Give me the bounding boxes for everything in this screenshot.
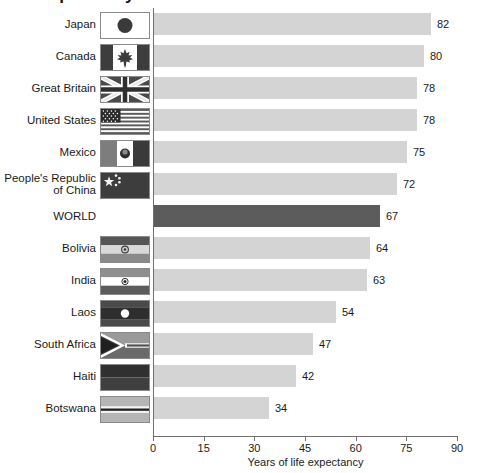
x-axis-tick: [254, 436, 255, 441]
flag-united-states-icon: [100, 108, 150, 135]
bar-value-label: 78: [423, 109, 435, 131]
bar: [154, 365, 296, 387]
bar-row: South Africa47: [0, 328, 478, 360]
bar-row: People's Republicof China72: [0, 168, 478, 200]
flag-china-icon: [100, 172, 150, 199]
bar: [154, 45, 424, 67]
country-label: Bolivia: [0, 232, 96, 264]
bar: [154, 77, 417, 99]
country-label: WORLD: [0, 200, 96, 232]
bar-row: Bolivia64: [0, 232, 478, 264]
country-label-line1: People's Republic: [4, 172, 96, 185]
country-label: Mexico: [0, 136, 96, 168]
bar-row: Mexico75: [0, 136, 478, 168]
bar-row: WORLD67: [0, 200, 478, 232]
country-label: South Africa: [0, 328, 96, 360]
bar-value-label: 42: [302, 365, 314, 387]
bar-row: India63: [0, 264, 478, 296]
flag-south-africa-icon: [100, 332, 150, 359]
x-axis-tick: [457, 436, 458, 441]
bar-row: Canada80: [0, 40, 478, 72]
country-label: People's Republicof China: [0, 168, 96, 200]
x-axis-tick-label: 0: [150, 442, 156, 454]
x-axis-tick-label: 15: [198, 442, 210, 454]
x-axis-tick-label: 90: [451, 442, 463, 454]
x-axis-tick-label: 60: [350, 442, 362, 454]
bar: [154, 397, 269, 419]
bar-row: Botswana34: [0, 392, 478, 424]
flag-japan-icon: [100, 12, 150, 39]
flag-mexico-icon: [100, 140, 150, 167]
bar-row: Japan82: [0, 8, 478, 40]
country-label: Laos: [0, 296, 96, 328]
bar: [154, 237, 370, 259]
bar-value-label: 82: [437, 13, 449, 35]
country-label: United States: [0, 104, 96, 136]
bar: [154, 141, 407, 163]
flag-haiti-icon: [100, 364, 150, 391]
country-label: India: [0, 264, 96, 296]
bar: [154, 109, 417, 131]
life-expectancy-bar-chart: Japan82Canada80Great Britain78United Sta…: [0, 0, 478, 473]
x-axis-tick-label: 30: [248, 442, 260, 454]
x-axis-tick: [204, 436, 205, 441]
bar-value-label: 80: [430, 45, 442, 67]
country-label: Canada: [0, 40, 96, 72]
bar-row: United States78: [0, 104, 478, 136]
bar-value-label: 63: [373, 269, 385, 291]
country-label-line2: of China: [4, 184, 96, 197]
bar-value-label: 54: [342, 301, 354, 323]
bar-value-label: 64: [376, 237, 388, 259]
x-axis-tick: [356, 436, 357, 441]
bar-value-label: 67: [386, 205, 398, 227]
bar: [154, 205, 380, 227]
x-axis-tick-label: 75: [400, 442, 412, 454]
x-axis-tick-label: 45: [299, 442, 311, 454]
flag-india-icon: [100, 268, 150, 295]
bar-row: Great Britain78: [0, 72, 478, 104]
x-axis-tick: [406, 436, 407, 441]
flag-laos-icon: [100, 300, 150, 327]
bar: [154, 269, 367, 291]
bar: [154, 333, 313, 355]
country-label: Great Britain: [0, 72, 96, 104]
flag-canada-icon: [100, 44, 150, 71]
x-axis-label: Years of life expectancy: [153, 456, 458, 468]
bar-value-label: 75: [413, 141, 425, 163]
country-label: Haiti: [0, 360, 96, 392]
bar-row: Haiti42: [0, 360, 478, 392]
bar-value-label: 78: [423, 77, 435, 99]
flag-botswana-icon: [100, 396, 150, 423]
bar-value-label: 72: [403, 173, 415, 195]
bar: [154, 301, 336, 323]
bar-value-label: 34: [275, 397, 287, 419]
country-label: Japan: [0, 8, 96, 40]
x-axis-tick: [305, 436, 306, 441]
bar-value-label: 47: [319, 333, 331, 355]
country-label: Botswana: [0, 392, 96, 424]
flag-bolivia-icon: [100, 236, 150, 263]
bar: [154, 13, 431, 35]
bar: [154, 173, 397, 195]
bar-row: Laos54: [0, 296, 478, 328]
flag-great-britain-icon: [100, 76, 150, 103]
x-axis-tick: [153, 436, 154, 441]
